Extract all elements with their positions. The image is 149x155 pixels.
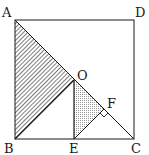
geometry-figure: A D B C O E F	[0, 0, 149, 155]
right-angle-mark-f	[100, 113, 108, 117]
label-b: B	[4, 141, 14, 155]
label-f: F	[107, 96, 116, 111]
label-d: D	[135, 5, 145, 20]
label-e: E	[69, 141, 79, 155]
hatched-triangle-abo	[15, 20, 74, 139]
label-a: A	[1, 5, 12, 20]
label-c: C	[131, 141, 141, 155]
dotted-triangle-oef	[74, 80, 104, 139]
label-o: O	[77, 68, 88, 83]
